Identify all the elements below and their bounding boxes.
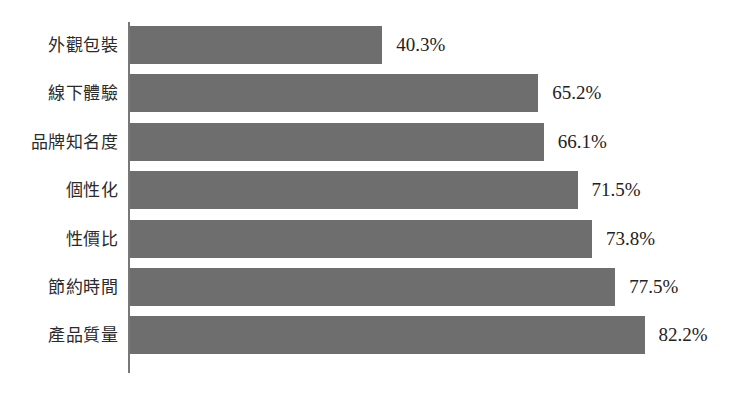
bar-row: 節約時間 77.5% xyxy=(0,268,733,316)
category-label: 產品質量 xyxy=(0,316,118,354)
bar-row: 外觀包裝 40.3% xyxy=(0,26,733,74)
category-label: 品牌知名度 xyxy=(0,123,118,161)
value-label: 40.3% xyxy=(396,26,445,64)
plot-area: 外觀包裝 40.3% 線下體驗 65.2% 品牌知名度 66.1% 個性化 71… xyxy=(0,0,733,395)
bar-chart: 外觀包裝 40.3% 線下體驗 65.2% 品牌知名度 66.1% 個性化 71… xyxy=(0,0,733,395)
value-label: 77.5% xyxy=(629,268,678,306)
value-label: 73.8% xyxy=(606,220,655,258)
category-label: 線下體驗 xyxy=(0,74,118,112)
value-label: 65.2% xyxy=(552,74,601,112)
value-label: 71.5% xyxy=(592,171,641,209)
bar xyxy=(130,316,645,354)
bar xyxy=(130,74,538,112)
category-label: 個性化 xyxy=(0,171,118,209)
bar xyxy=(130,171,578,209)
bar-row: 性價比 73.8% xyxy=(0,220,733,268)
category-label: 節約時間 xyxy=(0,268,118,306)
bar-row: 個性化 71.5% xyxy=(0,171,733,219)
bar xyxy=(130,220,592,258)
bar xyxy=(130,26,382,64)
bar-row: 品牌知名度 66.1% xyxy=(0,123,733,171)
bar-row: 線下體驗 65.2% xyxy=(0,74,733,122)
bar xyxy=(130,268,615,306)
bar-row: 產品質量 82.2% xyxy=(0,316,733,364)
value-label: 66.1% xyxy=(558,123,607,161)
category-label: 性價比 xyxy=(0,220,118,258)
bar xyxy=(130,123,544,161)
category-label: 外觀包裝 xyxy=(0,26,118,64)
value-label: 82.2% xyxy=(659,316,708,354)
